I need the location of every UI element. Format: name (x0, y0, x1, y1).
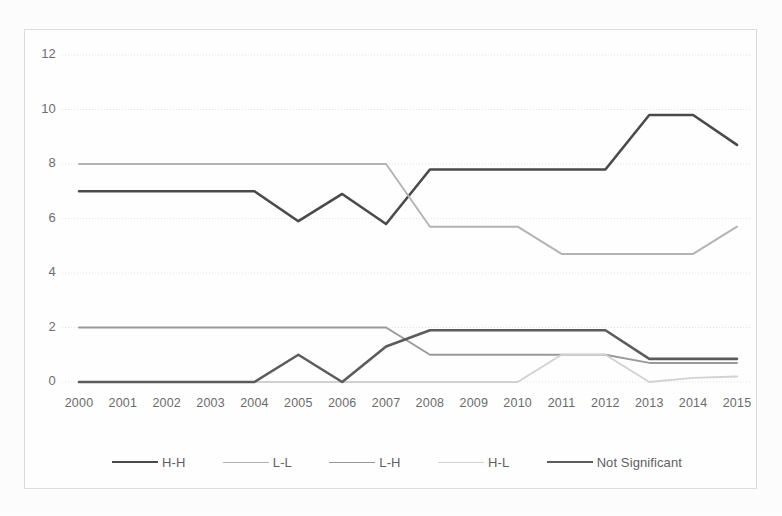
legend-item-h-h[interactable]: H-H (112, 455, 185, 470)
legend-item-l-l[interactable]: L-L (223, 455, 292, 470)
legend-label: Not Significant (597, 455, 682, 470)
x-tick-label: 2005 (277, 396, 319, 410)
x-tick-label: 2001 (102, 396, 144, 410)
x-tick-label: 2010 (497, 396, 539, 410)
y-tick-label: 2 (30, 319, 56, 334)
legend-item-not-significant[interactable]: Not Significant (547, 455, 682, 470)
x-tick-label: 2009 (453, 396, 495, 410)
x-tick-label: 2013 (628, 396, 670, 410)
x-tick-label: 2011 (541, 396, 583, 410)
x-tick-label: 2000 (58, 396, 100, 410)
legend-line-swatch-icon (547, 461, 593, 463)
y-tick-label: 10 (30, 101, 56, 116)
x-tick-label: 2002 (146, 396, 188, 410)
plot-area-frame (24, 29, 757, 489)
legend-label: L-L (273, 455, 292, 470)
x-tick-label: 2003 (190, 396, 232, 410)
legend-item-h-l[interactable]: H-L (438, 455, 509, 470)
legend-label: L-H (379, 455, 400, 470)
legend-line-swatch-icon (438, 462, 484, 463)
y-tick-label: 8 (30, 155, 56, 170)
y-tick-label: 0 (30, 373, 56, 388)
y-tick-label: 12 (30, 46, 56, 61)
legend-item-l-h[interactable]: L-H (329, 455, 400, 470)
legend-label: H-L (488, 455, 509, 470)
legend-label: H-H (162, 455, 185, 470)
x-tick-label: 2015 (716, 396, 758, 410)
x-tick-label: 2008 (409, 396, 451, 410)
legend-line-swatch-icon (223, 462, 269, 463)
x-tick-label: 2014 (672, 396, 714, 410)
y-tick-label: 4 (30, 264, 56, 279)
x-tick-label: 2004 (233, 396, 275, 410)
legend-line-swatch-icon (112, 461, 158, 463)
line-chart-figure: 024681012 200020012002200320042005200620… (0, 0, 782, 516)
chart-legend: H-HL-LL-HH-LNot Significant (112, 449, 682, 475)
x-tick-label: 2007 (365, 396, 407, 410)
y-tick-label: 6 (30, 210, 56, 225)
x-tick-label: 2012 (584, 396, 626, 410)
x-tick-label: 2006 (321, 396, 363, 410)
legend-line-swatch-icon (329, 462, 375, 463)
